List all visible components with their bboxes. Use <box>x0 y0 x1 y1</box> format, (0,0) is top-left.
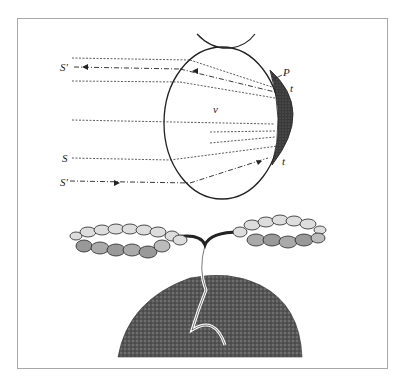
nodule-cluster-left <box>70 224 187 258</box>
arrow-right-icon <box>256 160 262 165</box>
arrow-left-icon <box>82 64 88 70</box>
eyelid-arc <box>197 34 255 48</box>
label-t-bottom: t <box>282 155 286 167</box>
arrow-right-icon <box>114 180 120 186</box>
label-s-prime-top: S' <box>60 61 69 73</box>
arrow-left-icon <box>192 68 198 74</box>
plant-illustration <box>70 215 326 357</box>
label-v: v <box>213 103 218 115</box>
eye-diagram: S' S S' P t t v <box>60 34 294 199</box>
light-rays <box>72 58 278 160</box>
figure-canvas: S' S S' P t t v <box>0 0 408 387</box>
label-s-prime-bottom: S' <box>60 176 69 188</box>
nodule-cluster-right <box>233 215 326 248</box>
soil-mound <box>118 275 302 357</box>
label-p: P <box>282 66 290 78</box>
label-t-top: t <box>290 82 294 94</box>
label-s: S <box>62 152 68 164</box>
